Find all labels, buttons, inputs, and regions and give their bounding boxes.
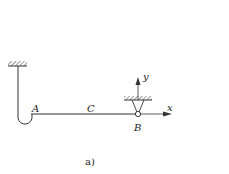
diagram-canvas: A C B x y a) — [0, 0, 229, 174]
hanging-rod-hook — [18, 66, 32, 124]
label-x-axis: x — [167, 102, 173, 113]
label-a: A — [31, 103, 39, 114]
label-b: B — [133, 122, 141, 133]
label-y-axis: y — [142, 71, 149, 82]
label-c: C — [87, 103, 95, 114]
figure-caption: a) — [85, 156, 95, 167]
left-ground-support — [8, 61, 27, 66]
pin-joint-b — [135, 111, 140, 116]
